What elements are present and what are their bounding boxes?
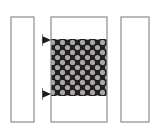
diagram-canvas <box>0 0 162 138</box>
right-vertical-bar <box>121 17 149 122</box>
technical-diagram <box>0 0 162 138</box>
dotted-pattern-region <box>51 39 107 96</box>
center-bar-group <box>51 17 107 122</box>
right-bar-group <box>121 17 149 122</box>
left-bar-group <box>11 17 34 122</box>
left-vertical-bar <box>11 17 34 122</box>
